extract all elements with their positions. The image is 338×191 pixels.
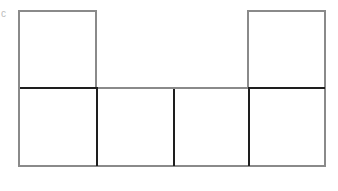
top-right-face-top-edge bbox=[247, 10, 326, 12]
fold-line-left-top bbox=[20, 87, 97, 89]
cube-net-diagram: c bbox=[0, 0, 338, 191]
outline-bottom-edge bbox=[18, 165, 326, 167]
top-left-face-right-edge bbox=[95, 10, 97, 89]
corner-mark: c bbox=[1, 8, 6, 19]
top-right-face-left-edge bbox=[247, 10, 249, 89]
fold-line-right-top bbox=[249, 87, 325, 89]
middle-top-edge bbox=[96, 87, 248, 89]
fold-line-vertical-3 bbox=[248, 87, 250, 166]
fold-line-vertical-1 bbox=[96, 87, 98, 166]
fold-line-vertical-2 bbox=[173, 89, 175, 166]
top-left-face-top-edge bbox=[18, 10, 97, 12]
